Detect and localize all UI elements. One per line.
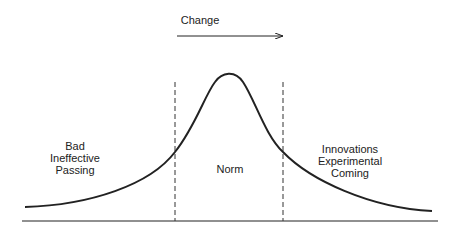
left-region-label: Bad Ineffective Passing <box>40 140 110 176</box>
change-label: Change <box>175 14 225 26</box>
norm-curve-diagram <box>0 0 459 235</box>
right-region-label: Innovations Experimental Coming <box>310 143 390 179</box>
norm-label: Norm <box>205 163 255 175</box>
